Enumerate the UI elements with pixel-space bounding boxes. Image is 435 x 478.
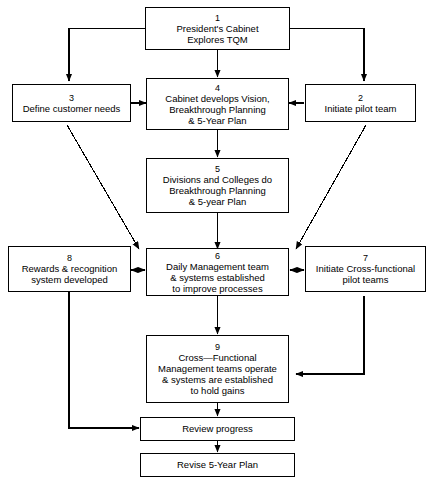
node-6-number: 6 <box>215 251 220 261</box>
node-6-label: Daily Management team & systems establis… <box>163 261 272 294</box>
edge-8-to-10 <box>69 292 139 428</box>
node-3-number: 3 <box>69 93 74 103</box>
node-7-number: 7 <box>363 253 368 263</box>
node-9-cross-functional-management[interactable]: 9 Cross—Functional Management teams oper… <box>146 335 289 403</box>
node-revise-5-year-plan-label: Revise 5-Year Plan <box>174 459 261 471</box>
edge-3-to-6 <box>67 125 139 249</box>
node-7-initiate-cross-functional[interactable]: 7 Initiate Cross-functional pilot teams <box>305 246 426 292</box>
node-8-number: 8 <box>67 253 72 263</box>
node-4-number: 4 <box>215 83 220 93</box>
node-2-label: Initiate pilot team <box>322 103 400 114</box>
node-9-number: 9 <box>215 342 220 352</box>
node-3-label: Define customer needs <box>20 103 124 114</box>
node-9-label: Cross—Functional Management teams operat… <box>155 352 280 396</box>
connector-layer <box>0 0 435 478</box>
node-revise-5-year-plan[interactable]: Revise 5-Year Plan <box>140 453 295 477</box>
node-7-label: Initiate Cross-functional pilot teams <box>313 263 418 285</box>
edge-7-to-9 <box>296 296 364 374</box>
node-review-progress-label: Review progress <box>179 423 256 435</box>
edge-1-to-2 <box>290 29 364 82</box>
node-1-number: 1 <box>215 13 220 23</box>
edge-1-to-3 <box>69 29 145 82</box>
node-8-label: Rewards & recognition system developed <box>19 263 121 285</box>
node-5-number: 5 <box>215 164 220 174</box>
node-3-define-customer-needs[interactable]: 3 Define customer needs <box>12 84 131 122</box>
node-1-presidents-cabinet[interactable]: 1 President's Cabinet Explores TQM <box>145 7 290 50</box>
node-8-rewards-recognition[interactable]: 8 Rewards & recognition system developed <box>8 246 131 292</box>
node-2-number: 2 <box>358 93 363 103</box>
edge-2-to-6 <box>296 125 366 249</box>
node-5-divisions-colleges[interactable]: 5 Divisions and Colleges do Breakthrough… <box>146 158 289 213</box>
node-4-label: Cabinet develops Vision, Breakthrough Pl… <box>162 93 272 126</box>
node-1-label: President's Cabinet Explores TQM <box>173 23 261 45</box>
node-review-progress[interactable]: Review progress <box>140 417 295 441</box>
node-2-initiate-pilot-team[interactable]: 2 Initiate pilot team <box>305 84 416 122</box>
flowchart-canvas: 1 President's Cabinet Explores TQM 3 Def… <box>0 0 435 478</box>
node-4-cabinet-develops-vision[interactable]: 4 Cabinet develops Vision, Breakthrough … <box>146 78 289 130</box>
node-6-daily-management-team[interactable]: 6 Daily Management team & systems establ… <box>146 248 289 296</box>
node-5-label: Divisions and Colleges do Breakthrough P… <box>160 174 275 207</box>
